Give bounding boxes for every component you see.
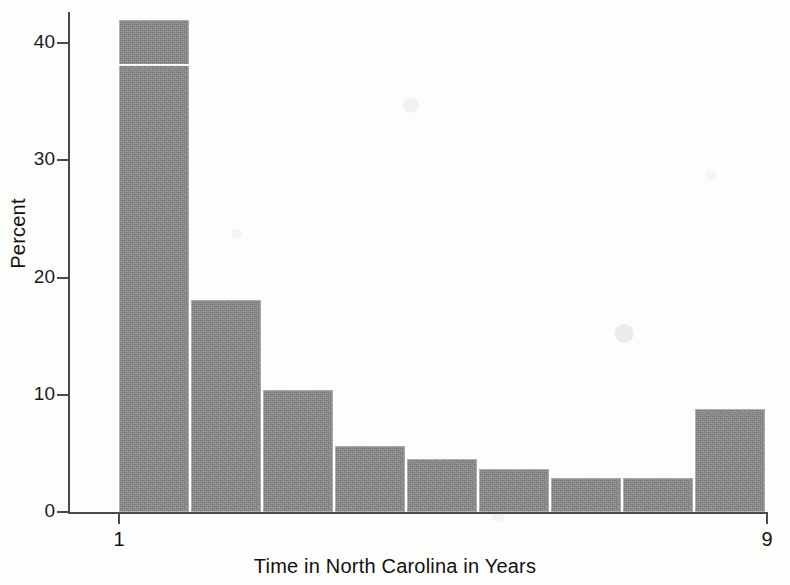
- histogram-bar: [407, 459, 477, 512]
- x-axis-tick: [118, 513, 120, 524]
- histogram-bar: [479, 469, 549, 512]
- y-axis-tick-label: 0: [0, 500, 55, 522]
- x-axis-line: [68, 512, 768, 514]
- x-axis-tick-label: 1: [113, 528, 124, 551]
- y-axis-tick-label: 30: [0, 148, 55, 170]
- histogram-bar: [263, 390, 333, 512]
- histogram-bar: [623, 478, 693, 512]
- y-axis-tick-label: 40: [0, 31, 55, 53]
- histogram-figure: 010203040 19 Time in North Carolina in Y…: [0, 0, 790, 585]
- x-axis-tick-label: 9: [761, 528, 772, 551]
- histogram-bar: [335, 446, 405, 512]
- y-axis-tick-label: 10: [0, 383, 55, 405]
- histogram-bar: [551, 478, 621, 512]
- y-axis-title: Percent: [7, 174, 30, 294]
- histogram-bar: [191, 300, 261, 512]
- bars-layer: [68, 12, 768, 512]
- x-axis-title: Time in North Carolina in Years: [0, 555, 790, 578]
- histogram-bar: [119, 20, 189, 512]
- histogram-bar: [695, 409, 765, 512]
- x-axis-tick: [766, 513, 768, 524]
